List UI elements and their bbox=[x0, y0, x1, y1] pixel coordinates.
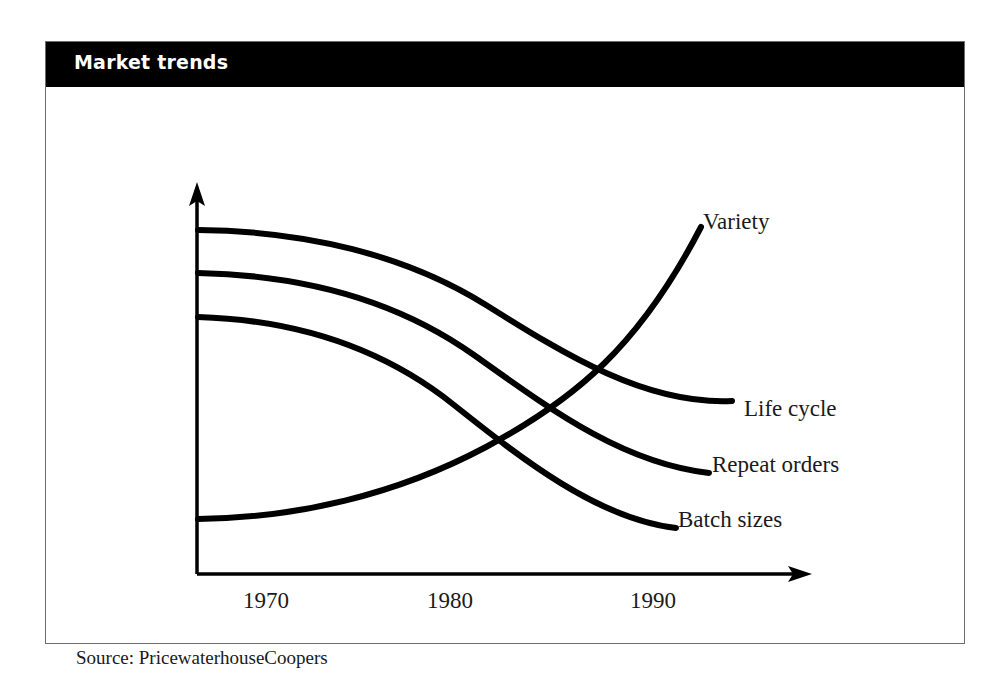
figure-header-bar: Market trends bbox=[46, 42, 964, 87]
source-note: Source: PricewaterhouseCoopers bbox=[76, 647, 328, 669]
series-line-life-cycle bbox=[198, 230, 732, 401]
series-label-variety: Variety bbox=[703, 209, 769, 235]
series-line-repeat-orders bbox=[198, 273, 709, 473]
series-label-life-cycle: Life cycle bbox=[744, 396, 837, 422]
series-line-variety bbox=[198, 227, 701, 519]
chart-plot-area: 1970 1980 1990 Variety Life cycle Repeat… bbox=[46, 87, 964, 645]
x-tick-label-1990: 1990 bbox=[630, 588, 676, 614]
x-axis bbox=[197, 566, 812, 582]
figure-frame: Market trends 1970 1980 bbox=[45, 41, 965, 644]
y-axis bbox=[189, 182, 205, 574]
series-label-repeat-orders: Repeat orders bbox=[712, 452, 839, 478]
market-trends-line-chart bbox=[46, 87, 964, 645]
series-label-batch-sizes: Batch sizes bbox=[678, 507, 782, 533]
x-tick-label-1980: 1980 bbox=[427, 588, 473, 614]
series-line-batch-sizes bbox=[198, 317, 676, 528]
x-tick-label-1970: 1970 bbox=[243, 588, 289, 614]
figure-title: Market trends bbox=[74, 51, 228, 73]
